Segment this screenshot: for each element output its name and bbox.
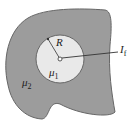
current-wire-dot	[58, 57, 62, 61]
outer-mu-label: μ2	[22, 76, 32, 91]
outer-mu-subscript: 2	[28, 82, 32, 91]
inner-mu-subscript: 1	[55, 72, 59, 81]
radius-arrow-tip	[47, 38, 49, 40]
current-subscript: f	[124, 49, 127, 58]
diagram-canvas	[0, 0, 136, 123]
radius-label: R	[56, 36, 63, 48]
current-label: If	[120, 43, 126, 58]
inner-mu-label: μ1	[49, 66, 59, 81]
